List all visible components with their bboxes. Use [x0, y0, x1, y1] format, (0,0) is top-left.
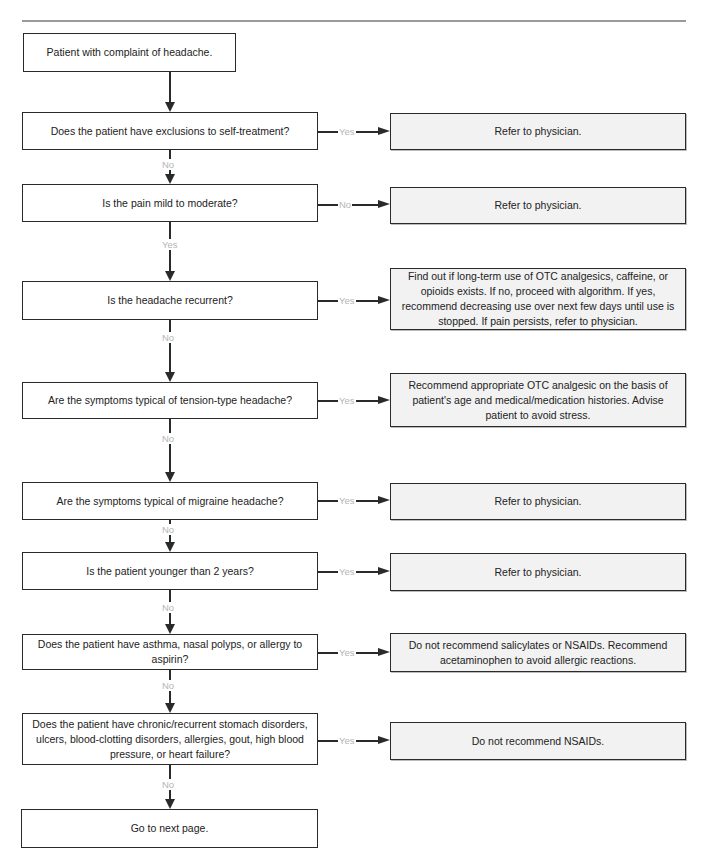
branch-label-no: No [161, 433, 175, 444]
arrow-right-icon [378, 736, 390, 744]
arrow-down-icon [165, 271, 175, 281]
end-box: Go to next page. [21, 809, 318, 848]
branch-label-yes: Yes [338, 647, 356, 658]
branch-label-no: No [161, 779, 175, 790]
decision-text: Does the patient have exclusions to self… [51, 124, 290, 139]
start-text: Patient with complaint of headache. [47, 45, 213, 60]
action-text: Find out if long-term use of OTC analges… [399, 269, 677, 329]
arrow-down-icon [165, 624, 175, 634]
arrow-right-icon [378, 200, 390, 208]
header-rule [22, 20, 686, 22]
end-text: Go to next page. [131, 821, 209, 836]
action-text: Refer to physician. [495, 565, 582, 580]
action-text: Do not recommend NSAIDs. [472, 734, 604, 749]
action-box-overuse: Find out if long-term use of OTC analges… [390, 268, 686, 330]
branch-label-no: No [161, 159, 175, 170]
branch-label-yes: Yes [338, 395, 356, 406]
arrow-right-icon [378, 296, 390, 304]
action-box-no-nsaids: Do not recommend NSAIDs. [390, 722, 686, 760]
arrow-down-icon [165, 472, 175, 482]
arrow-right-icon [378, 567, 390, 575]
arrow-right-icon [378, 648, 390, 656]
branch-label-yes: Yes [338, 126, 356, 137]
arrow-down-icon [165, 799, 175, 809]
action-text: Refer to physician. [495, 198, 582, 213]
arrow-down-icon [165, 542, 175, 552]
decision-text: Does the patient have asthma, nasal poly… [31, 637, 309, 667]
decision-box-chronic-conditions: Does the patient have chronic/recurrent … [22, 713, 318, 765]
arrow-right-icon [378, 496, 390, 504]
branch-label-no: No [338, 199, 352, 210]
branch-label-no: No [161, 602, 175, 613]
connector-line [169, 320, 171, 372]
action-text: Refer to physician. [495, 494, 582, 509]
decision-text: Are the symptoms typical of migraine hea… [56, 494, 283, 509]
action-text: Recommend appropriate OTC analgesic on t… [399, 378, 677, 423]
arrow-right-icon [378, 396, 390, 404]
decision-box-tension: Are the symptoms typical of tension-type… [22, 382, 318, 419]
action-box-acetaminophen: Do not recommend salicylates or NSAIDs. … [390, 633, 686, 672]
connector-line [169, 419, 171, 472]
decision-box-exclusions: Does the patient have exclusions to self… [22, 112, 318, 150]
decision-text: Is the pain mild to moderate? [102, 196, 237, 211]
decision-text: Does the patient have chronic/recurrent … [31, 717, 309, 762]
decision-box-age: Is the patient younger than 2 years? [22, 552, 318, 590]
action-box-refer: Refer to physician. [390, 483, 686, 520]
decision-box-migraine: Are the symptoms typical of migraine hea… [22, 482, 318, 520]
branch-label-no: No [161, 332, 175, 343]
branch-label-yes: Yes [338, 566, 356, 577]
action-text: Refer to physician. [495, 124, 582, 139]
branch-label-no: No [161, 680, 175, 691]
decision-box-recurrent: Is the headache recurrent? [22, 281, 318, 320]
action-box-refer: Refer to physician. [390, 113, 686, 150]
action-box-refer: Refer to physician. [390, 187, 686, 224]
branch-label-yes: Yes [338, 735, 356, 746]
decision-text: Is the headache recurrent? [107, 293, 233, 308]
decision-box-asthma: Does the patient have asthma, nasal poly… [22, 634, 318, 670]
branch-label-yes: Yes [338, 295, 356, 306]
decision-text: Is the patient younger than 2 years? [86, 564, 254, 579]
branch-label-yes: Yes [338, 495, 356, 506]
arrow-down-icon [165, 174, 175, 184]
action-text: Do not recommend salicylates or NSAIDs. … [399, 638, 677, 668]
decision-box-pain-mild: Is the pain mild to moderate? [22, 184, 318, 222]
arrow-right-icon [378, 127, 390, 135]
start-box: Patient with complaint of headache. [23, 33, 236, 72]
decision-text: Are the symptoms typical of tension-type… [48, 393, 292, 408]
arrow-down-icon [165, 372, 175, 382]
connector-line [169, 72, 171, 102]
branch-label-yes: Yes [161, 239, 179, 250]
branch-label-no: No [161, 524, 175, 535]
action-box-otc-analgesic: Recommend appropriate OTC analgesic on t… [390, 373, 686, 427]
action-box-refer: Refer to physician. [390, 553, 686, 591]
arrow-down-icon [165, 102, 175, 112]
arrow-down-icon [165, 703, 175, 713]
